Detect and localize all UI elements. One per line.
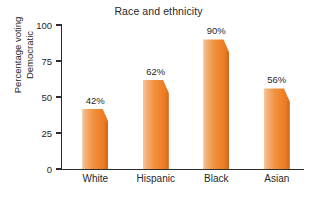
bar-shape: [264, 88, 290, 169]
bar-black[interactable]: 90%: [203, 39, 229, 169]
bar-value-label: 62%: [146, 66, 165, 77]
x-label-white: White: [82, 173, 108, 184]
bar-chart: Race and ethnicity Percentage voting Dem…: [0, 0, 317, 197]
chart-title: Race and ethnicity: [0, 5, 317, 17]
y-tick-label: 100: [36, 20, 52, 31]
y-tick-label: 0: [47, 163, 52, 174]
y-axis-label-line-2: Democratic: [24, 17, 36, 94]
x-label-black: Black: [204, 173, 228, 184]
plot-area: 0255075100 42%62%90%56%: [61, 25, 303, 169]
y-tick-label: 75: [41, 55, 52, 66]
x-label-asian: Asian: [264, 173, 289, 184]
bar-series: 42%62%90%56%: [61, 25, 303, 169]
bar-shape: [143, 80, 169, 169]
y-tick-label: 50: [41, 91, 52, 102]
bar-value-label: 42%: [86, 95, 105, 106]
bar-white[interactable]: 42%: [82, 109, 108, 169]
bar-shape: [203, 39, 229, 169]
bar-asian[interactable]: 56%: [264, 88, 290, 169]
x-label-hispanic: Hispanic: [137, 173, 175, 184]
y-axis-label-line-1: Percentage voting: [12, 17, 24, 94]
bar-shape: [82, 109, 108, 169]
bar-hispanic[interactable]: 62%: [143, 80, 169, 169]
bar-value-label: 56%: [267, 74, 286, 85]
x-axis-labels: WhiteHispanicBlackAsian: [61, 173, 303, 189]
y-tick-label: 25: [41, 127, 52, 138]
bar-value-label: 90%: [207, 25, 226, 36]
